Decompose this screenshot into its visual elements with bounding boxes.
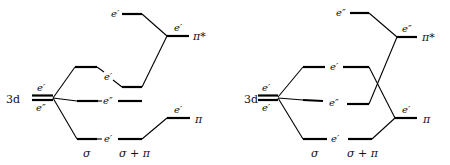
- right-mo-upper-label: e′: [330, 61, 339, 72]
- left-pistar-level-label: e′: [174, 22, 183, 33]
- right-branch-lower: [278, 98, 303, 139]
- right-pi-orbital-label: π: [422, 113, 431, 126]
- right-diagram: 3d e′ e′ e′ e″ e′ e″ e″ π* e′ π: [244, 7, 435, 160]
- right-mo-lower-label: e′: [331, 133, 340, 144]
- right-metal-lower-label: e′: [262, 102, 271, 113]
- left-connector-to-pi: [142, 118, 167, 139]
- left-connector-top-to-pistar: [142, 14, 167, 36]
- mo-correlation-diagrams: 3d e′ e″ e′ e″ e′ e′ e′ π*: [0, 0, 450, 165]
- left-column-sigma-pi: σ + π: [119, 147, 151, 160]
- left-branch-middle: [53, 98, 77, 101]
- right-branch-upper: [278, 67, 303, 97]
- right-connector-lower-to-pi: [372, 118, 395, 139]
- right-connector-top-to-pistar: [369, 13, 397, 37]
- right-pistar-top-label: e″: [336, 7, 346, 18]
- left-connector-to-pistar: [142, 36, 167, 87]
- left-pi-orbital-label: π: [194, 113, 203, 126]
- left-diagram: 3d e′ e″ e′ e″ e′ e′ e′ π*: [6, 8, 206, 160]
- right-branch-middle: [278, 98, 303, 100]
- left-column-sigma: σ: [83, 147, 91, 160]
- right-metal-3d-label: 3d: [244, 93, 258, 106]
- right-connector-upper-to-pi: [369, 67, 395, 118]
- left-branch-lower: [53, 98, 77, 139]
- left-connector-upper-a: [97, 67, 104, 72]
- left-metal-upper-label: e′: [37, 82, 46, 93]
- left-mo-upper-label: e′: [104, 71, 113, 82]
- left-connector-upper-b: [113, 80, 122, 87]
- right-sigma-level-middle: [303, 100, 323, 101]
- right-column-sigma-pi: σ + π: [347, 147, 379, 160]
- left-mo-lower-label: e′: [104, 133, 113, 144]
- right-column-sigma: σ: [311, 147, 319, 160]
- left-pi-level-label: e′: [174, 104, 183, 115]
- right-pistar-orbital-label: π*: [421, 31, 435, 44]
- left-metal-3d-label: 3d: [6, 93, 20, 106]
- right-pistar-level-label: e″: [402, 23, 412, 34]
- right-mo-middle-label: e″: [329, 97, 339, 108]
- right-metal-upper-label: e′: [262, 82, 271, 93]
- left-branch-upper: [53, 67, 75, 98]
- right-pi-level-label: e′: [402, 104, 411, 115]
- left-mo-middle-label: e″: [103, 95, 113, 106]
- left-pistar-top-label: e′: [111, 8, 120, 19]
- left-metal-lower-label: e″: [36, 102, 46, 113]
- left-pistar-orbital-label: π*: [192, 30, 206, 43]
